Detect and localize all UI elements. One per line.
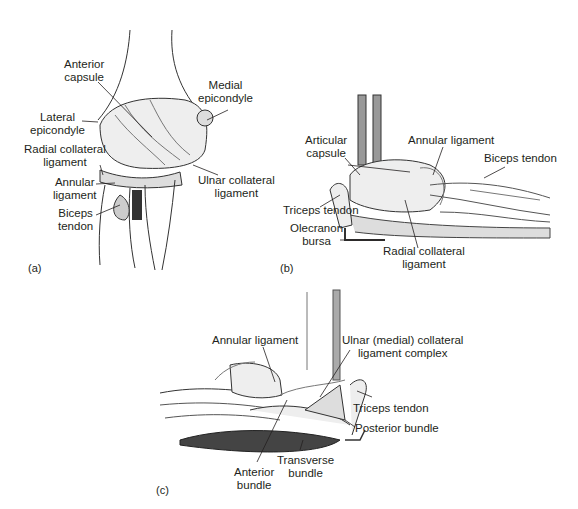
label-annular-ligament-c: Annular ligament	[212, 334, 298, 347]
panel-letter-c: (c)	[156, 484, 169, 496]
label-annular-ligament-a: Annular ligament	[53, 176, 96, 202]
label-lateral-epicondyle: Lateral epicondyle	[30, 111, 85, 137]
label-radial-collateral-ligament-b: Radial collateral ligament	[383, 245, 465, 271]
label-triceps-tendon-c: Triceps tendon	[353, 402, 429, 415]
panel-letter-b: (b)	[280, 262, 293, 274]
label-posterior-bundle: Posterior bundle	[355, 422, 439, 435]
label-anterior-bundle: Anterior bundle	[234, 466, 274, 492]
label-triceps-tendon-b: Triceps tendon	[283, 204, 359, 217]
label-olecranon-bursa: Olecranon bursa	[290, 222, 343, 248]
label-transverse-bundle: Transverse bundle	[277, 454, 334, 480]
label-ulnar-collateral-ligament: Ulnar collateral ligament	[198, 174, 275, 200]
label-articular-capsule: Articular capsule	[305, 134, 347, 160]
panel-c-drawing	[160, 290, 366, 452]
label-annular-ligament-b: Annular ligament	[408, 134, 494, 147]
label-biceps-tendon-b: Biceps tendon	[484, 152, 557, 165]
panel-a-drawing	[98, 30, 213, 270]
label-biceps-tendon-a: Biceps tendon	[58, 207, 93, 233]
label-anterior-capsule: Anterior capsule	[64, 58, 104, 84]
panel-letter-a: (a)	[28, 262, 41, 274]
panel-b-drawing	[330, 95, 550, 240]
label-radial-collateral-ligament-a: Radial collateral ligament	[24, 143, 106, 169]
label-ulnar-medial-collateral-complex: Ulnar (medial) collateral ligament compl…	[342, 334, 463, 360]
label-medial-epicondyle: Medial epicondyle	[198, 79, 253, 105]
